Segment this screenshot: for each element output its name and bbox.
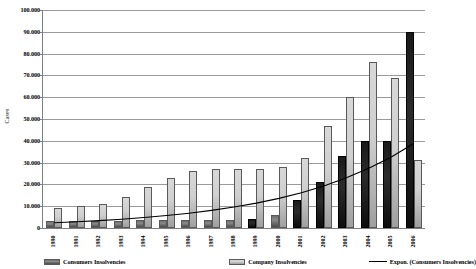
x-axis-tick-label: 1994 bbox=[140, 236, 147, 248]
y-axis-tick-label: 80.000 bbox=[8, 50, 40, 56]
bar-consumers-insolvencies bbox=[159, 220, 167, 228]
legend-item-company-insolvencies: Company Insolvencies bbox=[229, 258, 306, 265]
legend-label-trend: Expon. (Consumers Insolvencies) bbox=[390, 258, 476, 265]
legend-item-exponential-trend: Expon. (Consumers Insolvencies) bbox=[369, 258, 476, 265]
year-bar-group bbox=[200, 10, 222, 228]
y-axis-tick-label: 0 bbox=[8, 225, 40, 231]
chart-legend: Consumers Insolvencies Company Insolvenc… bbox=[42, 256, 424, 267]
x-axis-tick-label: 1997 bbox=[207, 236, 214, 248]
bar-company-insolvencies bbox=[346, 97, 354, 228]
bar-consumers-insolvencies bbox=[226, 220, 234, 228]
year-bar-group bbox=[223, 10, 245, 228]
y-axis-tick-label: 100.000 bbox=[8, 7, 40, 13]
x-axis-tick-cell: 2001 bbox=[289, 230, 311, 256]
bar-company-insolvencies bbox=[77, 206, 85, 228]
x-axis-tick-cell: 1997 bbox=[199, 230, 221, 256]
x-axis-tick-label: 1991 bbox=[72, 236, 79, 248]
y-axis-tick-label: 60.000 bbox=[8, 94, 40, 100]
x-axis-tick-cell: 1994 bbox=[132, 230, 154, 256]
x-axis-tick-label: 2001 bbox=[297, 236, 304, 248]
x-axis-tick-label: 2005 bbox=[387, 236, 394, 248]
legend-label-company: Company Insolvencies bbox=[248, 258, 306, 265]
bar-consumers-insolvencies bbox=[46, 221, 54, 228]
x-axis-tick-cell: 2005 bbox=[379, 230, 401, 256]
bar-company-insolvencies bbox=[391, 78, 399, 228]
bar-consumers-insolvencies bbox=[91, 221, 99, 228]
x-axis-tick-label: 1996 bbox=[185, 236, 192, 248]
x-axis-tick-cell: 1995 bbox=[154, 230, 176, 256]
legend-swatch-company-icon bbox=[229, 259, 245, 265]
bar-company-insolvencies bbox=[99, 204, 107, 228]
year-bar-group bbox=[245, 10, 267, 228]
x-axis-tick-cell: 1999 bbox=[244, 230, 266, 256]
x-axis-tick-label: 1998 bbox=[229, 236, 236, 248]
year-bar-group bbox=[380, 10, 402, 228]
year-bar-group bbox=[43, 10, 65, 228]
bar-company-insolvencies bbox=[301, 158, 309, 228]
x-axis-tick-cell: 1996 bbox=[177, 230, 199, 256]
plot-area bbox=[42, 10, 425, 229]
x-axis-tick-label: 2003 bbox=[342, 236, 349, 248]
bar-company-insolvencies bbox=[256, 169, 264, 228]
bar-company-insolvencies bbox=[54, 208, 62, 228]
year-bar-group bbox=[178, 10, 200, 228]
y-axis-tick-label: 20.000 bbox=[8, 181, 40, 187]
x-axis-tick-cell: 2006 bbox=[402, 230, 424, 256]
legend-swatch-consumers-icon bbox=[44, 259, 60, 265]
x-axis-tick-cell: 1990 bbox=[42, 230, 64, 256]
bar-consumers-insolvencies bbox=[406, 32, 414, 228]
year-bar-group bbox=[268, 10, 290, 228]
x-axis-tick-cell: 1992 bbox=[87, 230, 109, 256]
x-axis-tick-label: 1990 bbox=[50, 236, 57, 248]
year-bar-group bbox=[88, 10, 110, 228]
bar-consumers-insolvencies bbox=[271, 215, 279, 228]
y-axis-tickmark bbox=[40, 228, 43, 229]
bar-company-insolvencies bbox=[324, 126, 332, 228]
legend-item-consumers-insolvencies: Consumers Insolvencies bbox=[44, 258, 125, 265]
bar-consumers-insolvencies bbox=[361, 141, 369, 228]
x-axis-tick-label: 1995 bbox=[162, 236, 169, 248]
x-axis-tick-cell: 1991 bbox=[64, 230, 86, 256]
bar-company-insolvencies bbox=[167, 178, 175, 228]
legend-line-trend-icon bbox=[369, 261, 387, 262]
bar-company-insolvencies bbox=[414, 160, 422, 228]
year-bar-group bbox=[133, 10, 155, 228]
x-axis-tick-cell: 2003 bbox=[334, 230, 356, 256]
year-bar-group bbox=[313, 10, 335, 228]
x-axis-tick-label: 1993 bbox=[117, 236, 124, 248]
bar-company-insolvencies bbox=[234, 169, 242, 228]
x-axis-tick-label: 2000 bbox=[274, 236, 281, 248]
year-bar-group bbox=[290, 10, 312, 228]
bar-company-insolvencies bbox=[212, 169, 220, 228]
x-axis-tick-label: 2006 bbox=[409, 236, 416, 248]
y-axis-tick-label: 70.000 bbox=[8, 72, 40, 78]
bar-consumers-insolvencies bbox=[69, 221, 77, 228]
bar-company-insolvencies bbox=[122, 197, 130, 228]
x-axis-tick-cell: 1998 bbox=[222, 230, 244, 256]
bar-consumers-insolvencies bbox=[204, 220, 212, 228]
y-axis-tick-label: 40.000 bbox=[8, 138, 40, 144]
legend-label-consumers: Consumers Insolvencies bbox=[63, 258, 125, 265]
bar-company-insolvencies bbox=[144, 187, 152, 228]
year-bar-group bbox=[335, 10, 357, 228]
year-bar-group bbox=[403, 10, 425, 228]
bar-consumers-insolvencies bbox=[248, 219, 256, 228]
bar-consumers-insolvencies bbox=[338, 156, 346, 228]
bar-consumers-insolvencies bbox=[383, 141, 391, 228]
y-axis-tick-labels: 100.00090.00080.00070.00060.00050.00040.… bbox=[8, 0, 40, 232]
x-axis-tick-label: 2002 bbox=[319, 236, 326, 248]
y-axis-tick-label: 10.000 bbox=[8, 203, 40, 209]
y-axis-tick-label: 90.000 bbox=[8, 29, 40, 35]
bar-company-insolvencies bbox=[189, 171, 197, 228]
y-axis-tick-label: 30.000 bbox=[8, 159, 40, 165]
x-axis-tick-cell: 2004 bbox=[357, 230, 379, 256]
y-axis-tick-label: 50.000 bbox=[8, 116, 40, 122]
bar-consumers-insolvencies bbox=[181, 220, 189, 228]
year-bar-group bbox=[110, 10, 132, 228]
bars-layer bbox=[43, 10, 425, 228]
x-axis-tick-label: 2004 bbox=[364, 236, 371, 248]
bar-consumers-insolvencies bbox=[316, 182, 324, 228]
year-bar-group bbox=[155, 10, 177, 228]
bar-company-insolvencies bbox=[369, 62, 377, 228]
